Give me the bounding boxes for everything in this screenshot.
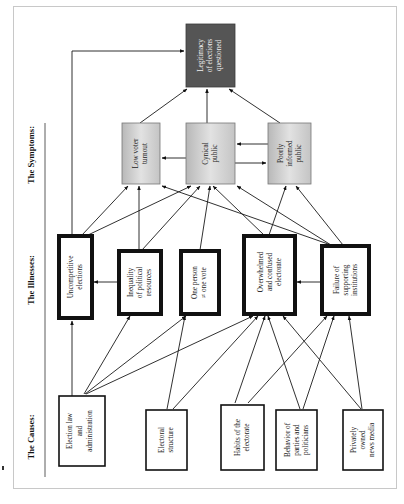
cause-node-habits-of-the-electorate: Habits of the electorate (221, 405, 264, 470)
svg-text:Uncompetitive: Uncompetitive (67, 256, 75, 299)
svg-text:Inequality: Inequality (127, 268, 135, 298)
svg-text:politicians: politicians (302, 425, 310, 455)
illness-node-one-person-not-one-vote: One person ≠ one vote (181, 251, 219, 314)
symptom-node-cynical-public: Cynical public (186, 123, 235, 184)
svg-text:Behavior of: Behavior of (284, 422, 292, 457)
svg-text:questioned: questioned (215, 40, 223, 72)
svg-text:informed: informed (286, 140, 294, 167)
svg-text:Overwhelmed: Overwhelmed (257, 251, 265, 292)
svg-text:Legitimacy: Legitimacy (197, 39, 205, 72)
cause-node-privately-owned-news-media: Privately owned news media (343, 410, 383, 470)
svg-text:One person: One person (191, 266, 199, 299)
svg-text:institutions: institutions (351, 264, 359, 296)
svg-text:The Causes:: The Causes: (26, 414, 36, 459)
svg-text:administration: administration (86, 410, 94, 452)
svg-text:Cynical: Cynical (202, 142, 210, 164)
illness-node-uncompetitive-elections: Uncompetitive elections (59, 236, 92, 318)
symptom-node-low-voter-turnout: Low voter turnout (122, 123, 160, 184)
heading-causes: The Causes: (26, 414, 36, 459)
heading-symptoms: The Symptoms: (26, 126, 36, 184)
cause-node-election-law-and-administration: Election law and administration (59, 396, 105, 466)
svg-text:owned: owned (359, 430, 367, 450)
svg-text:public: public (211, 145, 219, 163)
svg-text:Electoral: Electoral (158, 427, 166, 453)
svg-text:Election law: Election law (66, 412, 74, 449)
svg-text:≠ one vote: ≠ one vote (200, 267, 208, 297)
svg-text:resources: resources (145, 269, 153, 296)
svg-text:public: public (295, 145, 303, 163)
svg-text:news media: news media (368, 422, 376, 457)
svg-text:The Illnesses:: The Illnesses: (26, 255, 36, 305)
svg-text:turnout: turnout (141, 143, 149, 164)
svg-text:The Symptoms:: The Symptoms: (26, 126, 36, 184)
svg-text:parties and: parties and (293, 424, 301, 456)
page-marker (2, 466, 4, 470)
illness-node-failure-of-supporting-institutions: Failure of supporting institutions (322, 246, 369, 314)
illness-node-inequality-of-political-resources: Inequality of political resources (119, 251, 161, 314)
svg-text:Habits of the: Habits of the (234, 419, 242, 456)
illness-node-overwhelmed-and-confused-electorate: Overwhelmed and confused electorate (244, 236, 295, 314)
svg-text:Failure of: Failure of (333, 265, 341, 294)
svg-text:Poorly: Poorly (277, 144, 285, 164)
electoral-illness-diagram: The Causes: The Illnesses: The Symptoms: (0, 0, 404, 504)
cause-node-electoral-structure: Electoral structure (146, 410, 187, 470)
result-node-legitimacy: Legitimacy of elections questioned (186, 24, 235, 87)
svg-text:electorate: electorate (243, 424, 251, 452)
svg-text:elections: elections (76, 264, 84, 290)
svg-text:Privately: Privately (350, 427, 358, 453)
svg-text:supporting: supporting (342, 264, 350, 295)
svg-text:electorate: electorate (275, 258, 283, 286)
svg-text:structure: structure (167, 427, 175, 452)
symptom-node-poorly-informed-public: Poorly informed public (268, 123, 311, 184)
cause-node-behavior-of-parties-and-politicians: Behavior of parties and politicians (276, 410, 317, 470)
svg-text:of elections: of elections (206, 39, 214, 73)
svg-text:of political: of political (136, 267, 144, 298)
svg-text:and: and (76, 425, 84, 436)
heading-illnesses: The Illnesses: (26, 255, 36, 305)
svg-text:and confused: and confused (266, 253, 274, 292)
svg-text:Low voter: Low voter (132, 138, 140, 168)
